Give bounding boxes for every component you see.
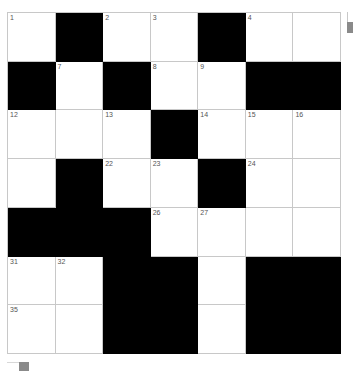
black-square — [103, 305, 151, 354]
clue-number: 14 — [200, 111, 208, 119]
crossword-cell[interactable]: 23 — [151, 159, 199, 208]
vertical-scroll-track[interactable] — [347, 12, 348, 22]
crossword-grid: 123478912131415162223242627313235 — [7, 12, 341, 354]
horizontal-scroll-track[interactable] — [7, 362, 19, 363]
clue-number: 8 — [153, 63, 157, 71]
black-square — [8, 208, 56, 257]
clue-number: 2 — [105, 14, 109, 22]
black-square — [246, 305, 294, 354]
black-square — [56, 208, 104, 257]
crossword-cell[interactable]: 2 — [103, 13, 151, 62]
black-square — [151, 257, 199, 306]
crossword-cell[interactable]: 12 — [8, 110, 56, 159]
crossword-cell[interactable]: 8 — [151, 62, 199, 111]
black-square — [293, 62, 341, 111]
crossword-cell[interactable] — [293, 208, 341, 257]
crossword-cell[interactable] — [293, 159, 341, 208]
black-square — [151, 305, 199, 354]
vertical-scrollbar[interactable] — [347, 12, 353, 34]
black-square — [103, 62, 151, 111]
crossword-cell[interactable]: 14 — [198, 110, 246, 159]
clue-number: 3 — [153, 14, 157, 22]
clue-number: 4 — [248, 14, 252, 22]
crossword-cell[interactable] — [246, 208, 294, 257]
crossword-cell[interactable]: 16 — [293, 110, 341, 159]
crossword-cell[interactable] — [8, 159, 56, 208]
crossword-cell[interactable]: 1 — [8, 13, 56, 62]
black-square — [56, 159, 104, 208]
black-square — [151, 110, 199, 159]
crossword-cell[interactable]: 13 — [103, 110, 151, 159]
crossword-cell[interactable]: 7 — [56, 62, 104, 111]
clue-number: 15 — [248, 111, 256, 119]
clue-number: 1 — [10, 14, 14, 22]
crossword-cell[interactable]: 15 — [246, 110, 294, 159]
crossword-cell[interactable]: 31 — [8, 257, 56, 306]
clue-number: 12 — [10, 111, 18, 119]
clue-number: 9 — [200, 63, 204, 71]
black-square — [56, 13, 104, 62]
crossword-cell[interactable]: 3 — [151, 13, 199, 62]
horizontal-scroll-thumb[interactable] — [19, 362, 29, 371]
clue-number: 27 — [200, 209, 208, 217]
horizontal-scrollbar[interactable] — [7, 362, 31, 371]
clue-number: 24 — [248, 160, 256, 168]
crossword-cell[interactable] — [198, 257, 246, 306]
black-square — [103, 208, 151, 257]
clue-number: 23 — [153, 160, 161, 168]
black-square — [293, 305, 341, 354]
clue-number: 35 — [10, 306, 18, 314]
clue-number: 16 — [295, 111, 303, 119]
crossword-cell[interactable]: 35 — [8, 305, 56, 354]
crossword-cell[interactable]: 9 — [198, 62, 246, 111]
black-square — [198, 159, 246, 208]
black-square — [246, 257, 294, 306]
clue-number: 13 — [105, 111, 113, 119]
black-square — [293, 257, 341, 306]
crossword-cell[interactable]: 4 — [246, 13, 294, 62]
clue-number: 26 — [153, 209, 161, 217]
crossword-cell[interactable]: 26 — [151, 208, 199, 257]
black-square — [103, 257, 151, 306]
crossword-cell[interactable] — [198, 305, 246, 354]
clue-number: 22 — [105, 160, 113, 168]
crossword-cell[interactable] — [56, 305, 104, 354]
black-square — [198, 13, 246, 62]
crossword-cell[interactable]: 24 — [246, 159, 294, 208]
vertical-scroll-thumb[interactable] — [347, 22, 353, 33]
clue-number: 7 — [58, 63, 62, 71]
clue-number: 31 — [10, 258, 18, 266]
crossword-cell[interactable]: 32 — [56, 257, 104, 306]
clue-number: 32 — [58, 258, 66, 266]
crossword-cell[interactable]: 27 — [198, 208, 246, 257]
crossword-cell[interactable] — [56, 110, 104, 159]
crossword-cell[interactable] — [293, 13, 341, 62]
black-square — [246, 62, 294, 111]
black-square — [8, 62, 56, 111]
crossword-cell[interactable]: 22 — [103, 159, 151, 208]
